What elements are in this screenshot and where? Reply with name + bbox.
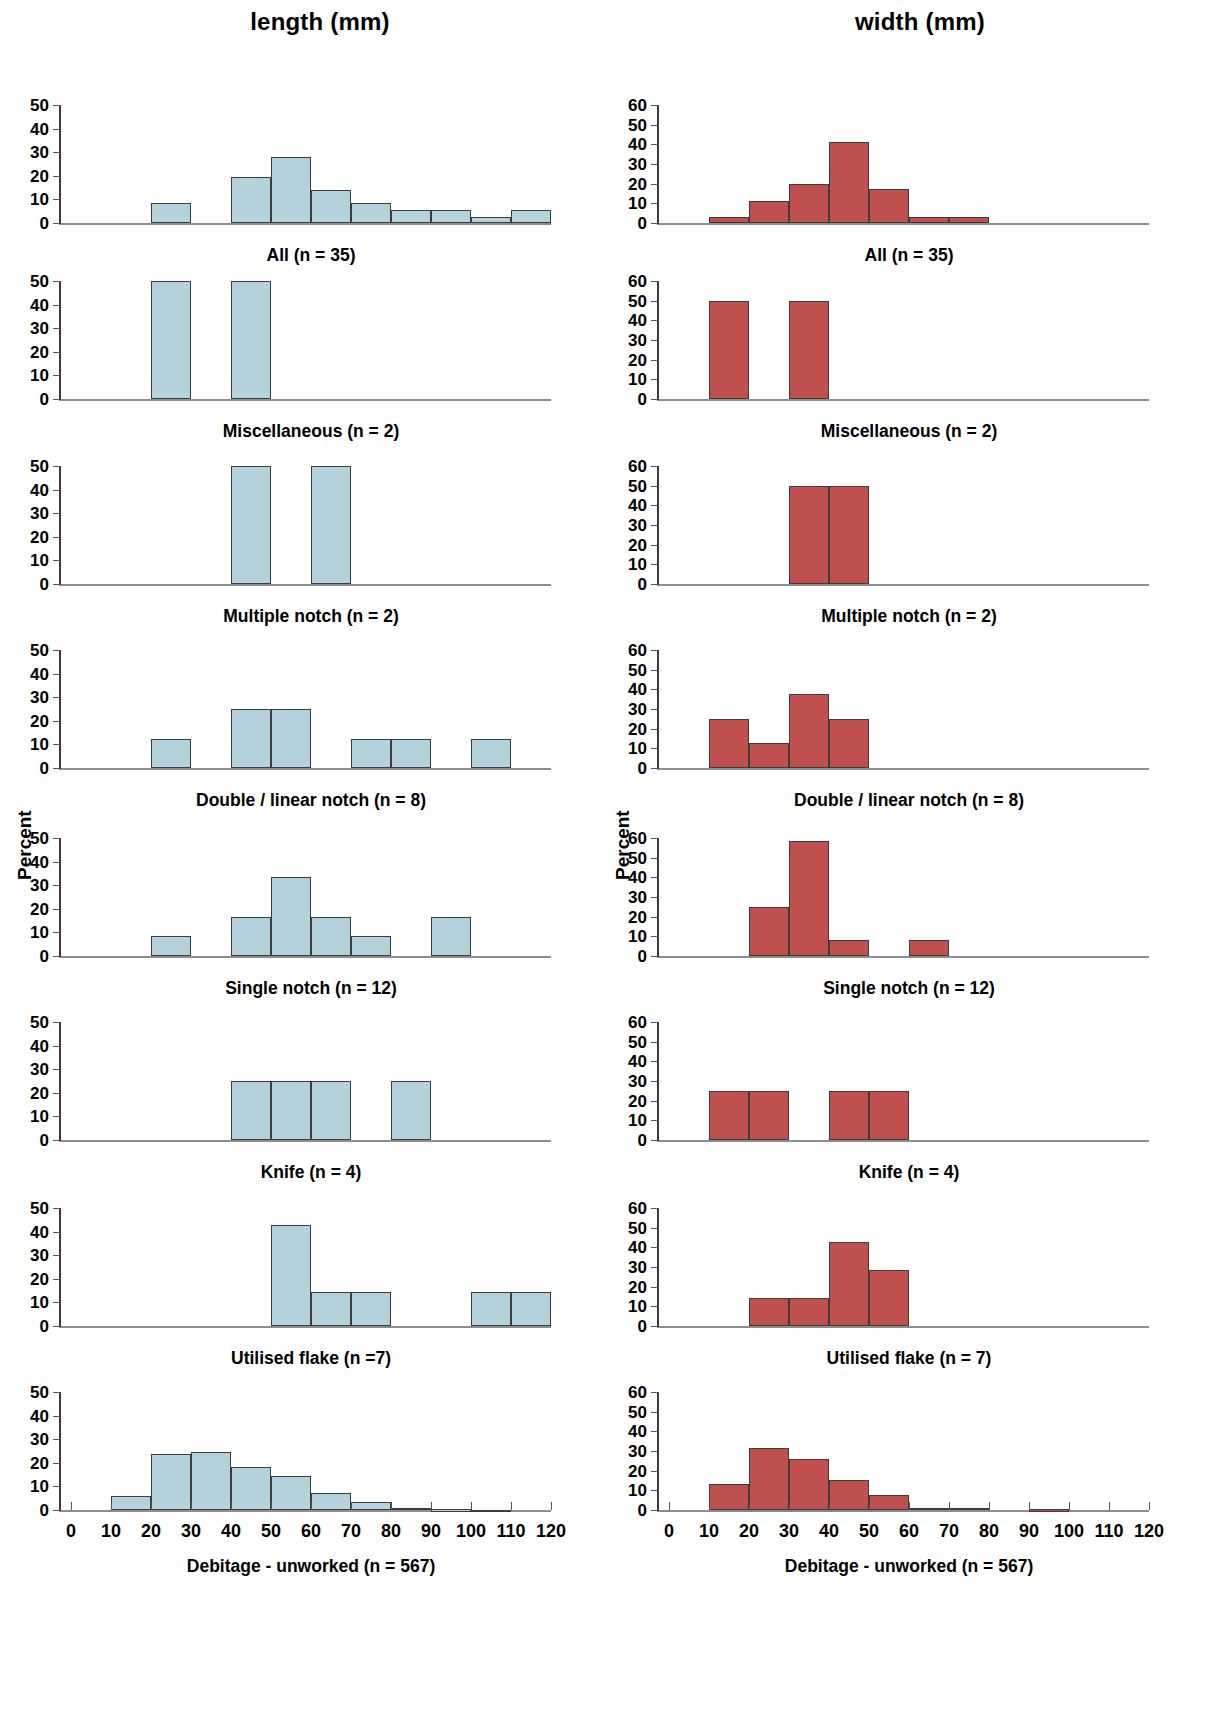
y-tick-label: 30 <box>605 1443 647 1460</box>
histogram-bar <box>909 1508 949 1511</box>
y-tick <box>651 1510 658 1511</box>
y-tick <box>651 1451 658 1452</box>
histogram-figure: length (mm) width (mm) Percent Percent 0… <box>0 0 1218 1712</box>
x-tick <box>909 1502 910 1510</box>
histogram-bar <box>709 1484 749 1510</box>
x-tick <box>829 1502 830 1510</box>
y-tick <box>651 1431 658 1432</box>
x-tick <box>789 1502 790 1510</box>
y-tick <box>651 1490 658 1491</box>
y-tick-label: 10 <box>605 1482 647 1499</box>
histogram-bar <box>789 1459 829 1510</box>
y-tick-label: 40 <box>605 1423 647 1440</box>
x-tick <box>669 1502 670 1510</box>
x-tick-label: 120 <box>1124 1522 1174 1540</box>
x-tick <box>989 1502 990 1510</box>
y-tick-label: 60 <box>605 1384 647 1401</box>
x-tick <box>1029 1502 1030 1510</box>
x-tick <box>709 1502 710 1510</box>
x-tick <box>949 1502 950 1510</box>
histogram-bar <box>869 1495 909 1510</box>
y-tick <box>651 1392 658 1393</box>
y-tick-label: 50 <box>605 1404 647 1421</box>
x-tick <box>1069 1502 1070 1510</box>
histogram-bar <box>749 1448 789 1510</box>
histogram-bar <box>949 1508 989 1511</box>
histogram-bar <box>1029 1509 1069 1512</box>
y-tick-label: 20 <box>605 1463 647 1480</box>
y-tick <box>651 1412 658 1413</box>
histogram-bar <box>829 1480 869 1510</box>
x-tick <box>869 1502 870 1510</box>
x-axis-line <box>657 1510 1149 1512</box>
x-tick <box>749 1502 750 1510</box>
y-tick <box>651 1471 658 1472</box>
y-tick-label: 0 <box>605 1502 647 1519</box>
histogram-panel: 0102030405060010203040506070809010011012… <box>0 0 1218 1712</box>
x-tick <box>1149 1502 1150 1510</box>
x-tick <box>1109 1502 1110 1510</box>
panel-caption: Debitage - unworked (n = 567) <box>609 1556 1209 1577</box>
